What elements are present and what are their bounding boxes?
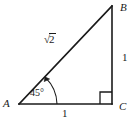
radicand-value: 2 bbox=[49, 33, 56, 46]
right-angle-mark-icon bbox=[100, 92, 112, 104]
angle-arc-a-icon bbox=[46, 78, 58, 104]
side-length-label-bc: 1 bbox=[122, 52, 128, 63]
vertex-label-b: B bbox=[120, 2, 127, 13]
vertex-label-c: C bbox=[119, 101, 126, 112]
side-length-label-ac: 1 bbox=[62, 108, 68, 119]
triangle-diagram-svg bbox=[0, 0, 135, 123]
geometry-figure: A B C 1 1 √2 45° bbox=[0, 0, 135, 123]
angle-measure-label-a: 45° bbox=[30, 88, 44, 98]
vertex-label-a: A bbox=[3, 98, 10, 109]
side-length-label-ab: √2 bbox=[44, 33, 56, 46]
